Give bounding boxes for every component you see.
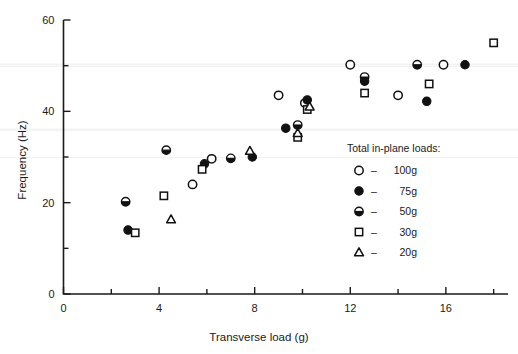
legend-marker-open-square bbox=[355, 228, 362, 235]
y-tick-label: 60 bbox=[42, 14, 54, 26]
x-tick-label: 12 bbox=[344, 302, 356, 314]
data-point bbox=[346, 61, 354, 69]
x-tick-label: 16 bbox=[440, 302, 452, 314]
data-point bbox=[413, 61, 421, 69]
data-point bbox=[198, 166, 205, 173]
x-tick-label: 8 bbox=[252, 302, 258, 314]
data-point bbox=[188, 180, 196, 188]
data-point bbox=[394, 91, 402, 99]
data-point bbox=[423, 97, 431, 105]
x-tick-label: 4 bbox=[156, 302, 162, 314]
data-point bbox=[227, 154, 235, 162]
data-point bbox=[360, 73, 368, 81]
x-axis-title: Transverse load (g) bbox=[209, 331, 308, 343]
data-point bbox=[160, 192, 167, 199]
legend-label: 20g bbox=[399, 246, 417, 258]
x-tick-label: 0 bbox=[60, 302, 66, 314]
legend-dash: – bbox=[371, 185, 377, 197]
data-point bbox=[425, 80, 432, 87]
legend-dash: – bbox=[371, 226, 377, 238]
scatter-chart: 02040600481216 Total in-plane loads:–100… bbox=[0, 0, 518, 354]
legend-label: 30g bbox=[399, 226, 417, 238]
legend-title: Total in-plane loads: bbox=[347, 142, 440, 154]
data-point bbox=[461, 61, 469, 69]
legend-label: 100g bbox=[394, 164, 418, 176]
data-point bbox=[274, 91, 282, 99]
legend-label: 75g bbox=[399, 185, 417, 197]
data-point bbox=[282, 124, 290, 132]
data-point bbox=[361, 89, 368, 96]
legend-label: 50g bbox=[399, 205, 417, 217]
legend-marker-half-circle bbox=[355, 207, 363, 215]
y-tick-label: 0 bbox=[48, 288, 54, 300]
y-axis-title: Frequency (Hz) bbox=[16, 120, 28, 199]
legend-dash: – bbox=[371, 164, 377, 176]
data-point bbox=[132, 229, 139, 236]
legend-dash: – bbox=[371, 246, 377, 258]
data-point bbox=[162, 146, 170, 154]
chart-background bbox=[0, 0, 518, 354]
data-point bbox=[439, 61, 447, 69]
chart-canvas: 02040600481216 Total in-plane loads:–100… bbox=[0, 0, 518, 354]
data-point bbox=[121, 198, 129, 206]
data-point bbox=[490, 39, 497, 46]
legend-dash: – bbox=[371, 205, 377, 217]
y-tick-label: 40 bbox=[42, 105, 54, 117]
legend-marker-filled-circle bbox=[355, 187, 363, 195]
legend-marker-open-circle bbox=[355, 166, 363, 174]
y-tick-label: 20 bbox=[42, 197, 54, 209]
